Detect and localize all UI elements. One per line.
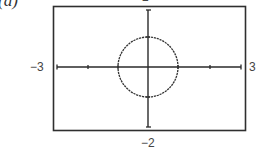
- graph-plot: [0, 0, 257, 158]
- window-frame: [54, 7, 246, 131]
